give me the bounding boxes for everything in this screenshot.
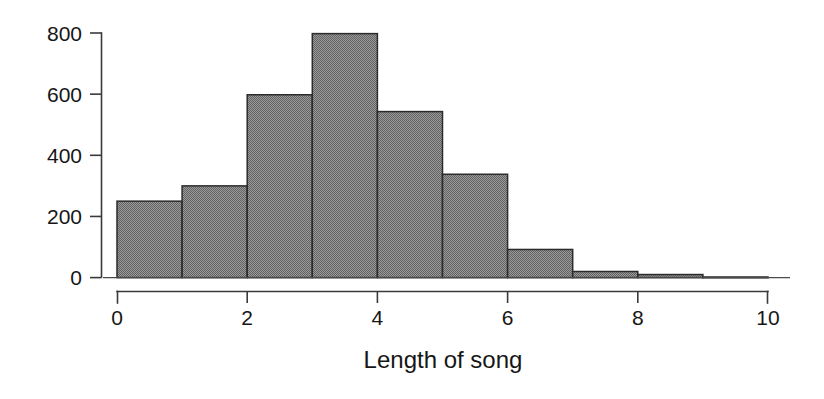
histogram-bar bbox=[117, 201, 182, 277]
x-axis-ticks bbox=[247, 292, 638, 304]
y-axis-tick-label: 0 bbox=[70, 266, 82, 289]
y-axis-tick-labels: 0200400600800 bbox=[47, 22, 82, 290]
histogram-figure: 0200400600800 0246810 Length of song bbox=[0, 0, 824, 399]
y-axis-tick-label: 600 bbox=[47, 83, 82, 106]
histogram-bar bbox=[247, 95, 312, 278]
histogram-bar bbox=[377, 112, 442, 278]
x-axis-title: Length of song bbox=[364, 346, 523, 373]
y-axis-tick-label: 400 bbox=[47, 144, 82, 167]
histogram-bar bbox=[573, 271, 638, 277]
x-axis-tick-labels: 0246810 bbox=[111, 306, 780, 329]
x-axis-tick-label: 10 bbox=[756, 306, 779, 329]
x-axis-tick-label: 0 bbox=[111, 306, 123, 329]
y-axis-tick-label: 800 bbox=[47, 22, 82, 45]
histogram-bars bbox=[117, 34, 768, 278]
histogram-bar bbox=[443, 174, 508, 277]
histogram-bar bbox=[508, 249, 573, 277]
histogram-bar bbox=[182, 186, 247, 278]
x-axis-tick-label: 4 bbox=[372, 306, 384, 329]
x-axis-tick-label: 8 bbox=[632, 306, 644, 329]
histogram-chart-canvas: 0200400600800 0246810 Length of song bbox=[0, 0, 824, 399]
x-axis-tick-label: 6 bbox=[502, 306, 514, 329]
x-axis-tick-label: 2 bbox=[241, 306, 253, 329]
histogram-bar bbox=[312, 34, 377, 278]
y-axis-tick-label: 200 bbox=[47, 205, 82, 228]
y-axis-ticks bbox=[90, 33, 102, 278]
